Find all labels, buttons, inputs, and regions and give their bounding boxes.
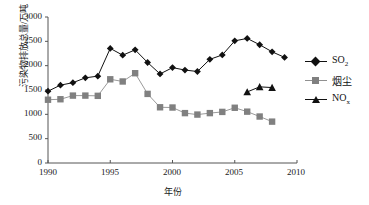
legend-label-so2: SO2: [332, 54, 348, 68]
legend-sample-nox: [305, 99, 327, 101]
plot-area: [0, 0, 369, 205]
legend-sample-smoke-dust: [305, 80, 327, 82]
emissions-line-chart: 污染物排放总量/万吨 年份 0 500 1000 1500 2000 2500 …: [0, 0, 369, 205]
legend-label-smoke-dust: 烟尘: [332, 73, 352, 90]
legend-sample-so2: [305, 61, 327, 63]
square-marker-icon: [312, 77, 319, 84]
legend-label-nox: NOx: [332, 92, 350, 106]
triangle-marker-icon: [312, 96, 320, 103]
